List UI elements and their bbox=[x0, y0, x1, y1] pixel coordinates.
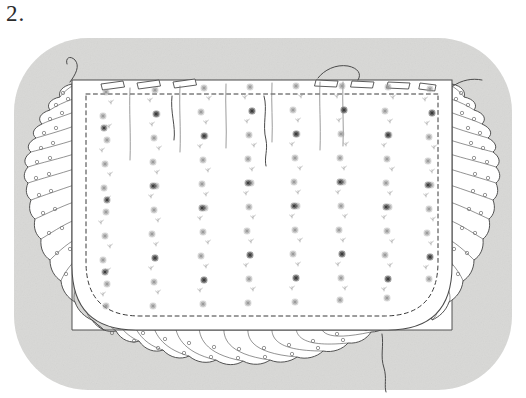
plate-artwork bbox=[0, 0, 526, 398]
illustration-page: 2. bbox=[0, 0, 526, 398]
main-fabric-panel bbox=[72, 80, 452, 330]
